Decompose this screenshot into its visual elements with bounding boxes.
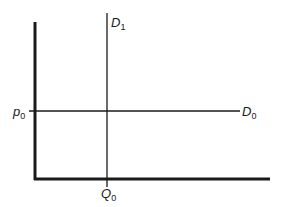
q0-label: Q0 (101, 186, 116, 203)
d1-label: D1 (111, 15, 125, 32)
diagram-canvas: D1 D0 p0 Q0 (0, 0, 281, 207)
d0-label: D0 (242, 104, 256, 121)
p0-label: p0 (12, 104, 25, 121)
